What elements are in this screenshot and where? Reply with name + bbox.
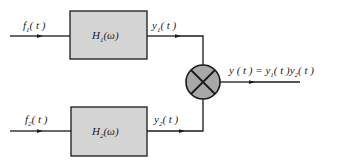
output-label: y ( t ) = y1( t )y2( t ): [228, 64, 314, 79]
intermediate-label-2: y2( t ): [153, 113, 179, 128]
input-label-1: f1( t ): [23, 19, 46, 34]
block-diagram: f1( t ) H1(ω) y1( t ) f2( t ) H2(ω) y2( …: [0, 0, 346, 163]
input-label-2: f2( t ): [25, 113, 48, 128]
intermediate-line-1: [147, 36, 203, 65]
multiplier-icon: [186, 65, 220, 99]
intermediate-label-1: y1( t ): [151, 19, 177, 34]
